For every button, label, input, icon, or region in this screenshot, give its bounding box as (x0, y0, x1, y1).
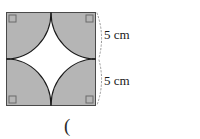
dimension-label-top: 5 cm (104, 28, 130, 41)
dimension-label-bottom: 5 cm (104, 74, 130, 87)
geometry-diagram (0, 0, 200, 139)
geometry-figure: 5 cm 5 cm ( (0, 0, 200, 139)
dimension-brace-top (97, 13, 102, 58)
dimension-brace-bottom (97, 60, 102, 105)
trailing-parenthesis: ( (64, 116, 70, 135)
